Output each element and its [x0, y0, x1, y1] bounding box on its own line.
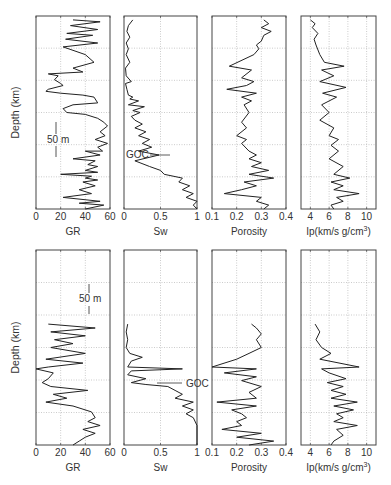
x-axis-label: Porosity [231, 226, 267, 237]
x-tick-label: 0.3 [254, 447, 268, 458]
x-tick-label: 8 [345, 447, 351, 458]
x-tick-label: 0.4 [279, 211, 293, 222]
x-tick-label: 10 [361, 211, 373, 222]
x-tick-label: 40 [80, 211, 92, 222]
scale-bar-label: 50 m [47, 134, 69, 145]
x-tick-label: 0 [33, 447, 39, 458]
x-tick-label: 0.3 [254, 211, 268, 222]
log-curve-gr [36, 324, 100, 445]
track-porosity: 0.10.20.30.4Porosity [205, 16, 293, 237]
x-tick-label: 4 [308, 211, 314, 222]
x-tick-label: 0 [121, 447, 127, 458]
x-tick-label: 0.2 [230, 211, 244, 222]
x-axis-label: Ip(km/s g/cm3) [306, 461, 370, 473]
x-tick-label: 0.5 [154, 447, 168, 458]
goc-label: GOC [186, 378, 209, 389]
x-tick-label: 6 [326, 447, 332, 458]
x-tick-label: 0.4 [279, 447, 293, 458]
scale-bar-label: 50 m [79, 293, 101, 304]
x-tick-label: 0 [121, 211, 127, 222]
x-tick-label: 0.1 [205, 211, 219, 222]
goc-annotation: GOC [126, 149, 170, 160]
x-tick-label: 20 [55, 211, 67, 222]
x-tick-label: 1 [194, 211, 200, 222]
log-curve-ip [315, 324, 359, 445]
x-axis-label: Porosity [231, 462, 267, 473]
x-tick-label: 60 [104, 447, 116, 458]
goc-annotation: GOC [157, 378, 209, 389]
track-porosity: 0.10.20.30.4Porosity [205, 250, 293, 473]
y-axis-label: Depth (km) [9, 322, 21, 374]
x-tick-label: 0 [33, 211, 39, 222]
track-sw: 00.51Sw [121, 250, 200, 473]
track-ip: 46810Ip(km/s g/cm3) [301, 16, 376, 237]
x-tick-label: 6 [326, 211, 332, 222]
track-gr: 0204060GR [33, 16, 116, 237]
log-curve-sw [126, 20, 198, 209]
x-tick-label: 0.5 [154, 211, 168, 222]
x-tick-label: 60 [104, 211, 116, 222]
log-row-2: Depth (km)0204060GR00.51Sw0.10.20.30.4Po… [9, 250, 376, 473]
x-axis-label: Ip(km/s g/cm3) [306, 225, 370, 237]
x-axis-label: GR [66, 462, 81, 473]
scale-bar-50m: 50 m [47, 122, 69, 157]
well-log-figure: Depth (km)0204060GR00.51Sw0.10.20.30.4Po… [0, 0, 391, 485]
x-axis-label: GR [66, 226, 81, 237]
x-tick-label: 1 [194, 447, 200, 458]
x-tick-label: 20 [55, 447, 67, 458]
y-axis-label: Depth (km) [9, 87, 21, 139]
x-tick-label: 8 [345, 211, 351, 222]
track-ip: 46810Ip(km/s g/cm3) [301, 250, 376, 473]
x-axis-label: Sw [154, 462, 169, 473]
x-tick-label: 0.1 [205, 447, 219, 458]
x-tick-label: 10 [361, 447, 373, 458]
x-tick-label: 0.2 [230, 447, 244, 458]
log-row-1: Depth (km)0204060GR00.51Sw0.10.20.30.4Po… [9, 16, 376, 237]
log-curve-porosity [212, 324, 274, 445]
log-curve-porosity [224, 20, 273, 209]
x-axis-label: Sw [154, 226, 169, 237]
track-sw: 00.51Sw [121, 16, 200, 237]
x-tick-label: 40 [80, 447, 92, 458]
track-gr: 0204060GR [33, 250, 116, 473]
goc-label: GOC [126, 149, 149, 160]
scale-bar-50m: 50 m [79, 284, 101, 314]
x-tick-label: 4 [308, 447, 314, 458]
